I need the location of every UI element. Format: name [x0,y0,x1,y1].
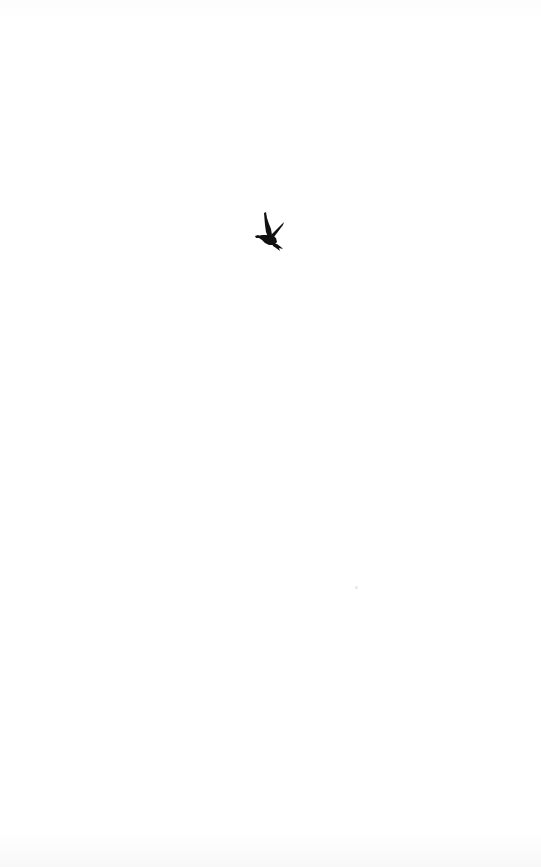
sky-background [0,0,541,867]
bird-silhouette-icon [250,208,290,254]
dust-speck [355,586,358,589]
